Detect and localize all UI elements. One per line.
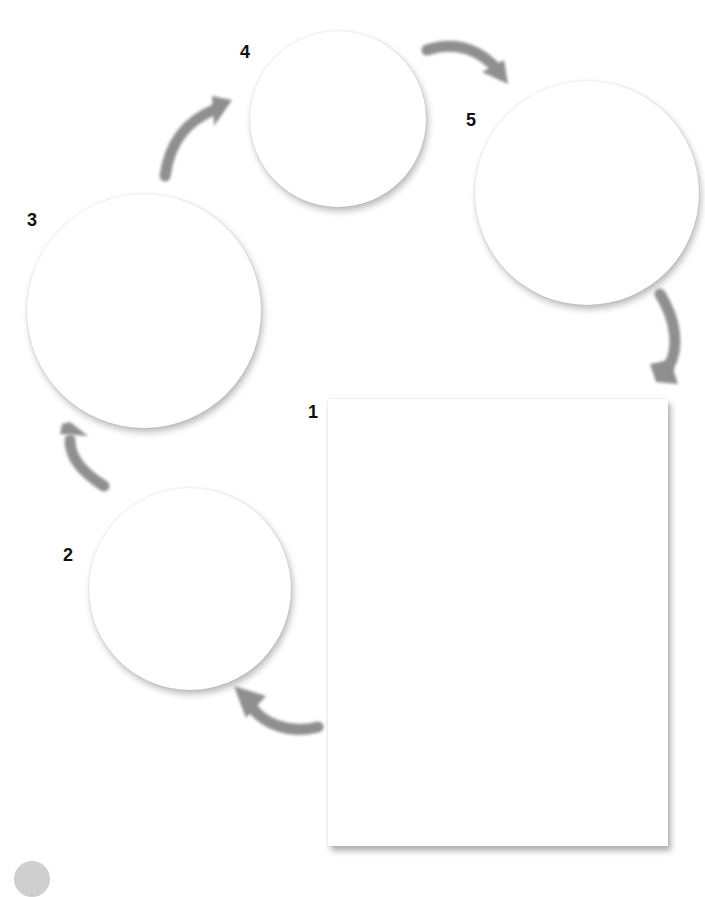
- arrow-2-to-3: [70, 440, 104, 486]
- arrowhead-3-to-4: [212, 96, 232, 126]
- corner-circle-fragment: [14, 861, 50, 897]
- arrow-5-to-1: [660, 294, 675, 368]
- arrow-1-to-2: [248, 702, 318, 729]
- arrow-4-to-5: [427, 46, 494, 66]
- arrow-3-to-4: [165, 109, 216, 176]
- arrowhead-2-to-3: [60, 422, 88, 436]
